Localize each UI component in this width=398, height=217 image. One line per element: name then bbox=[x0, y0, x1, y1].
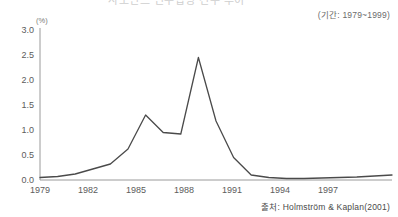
chart-page: 사모펀드 인수합병 건수 추이 (기간: 1979~1999) (%) 3.0 … bbox=[0, 0, 398, 217]
source-citation: 출처: Holmström & Kaplan(2001) bbox=[261, 200, 390, 212]
line-chart-plot bbox=[0, 0, 398, 217]
data-series-line bbox=[40, 58, 392, 179]
